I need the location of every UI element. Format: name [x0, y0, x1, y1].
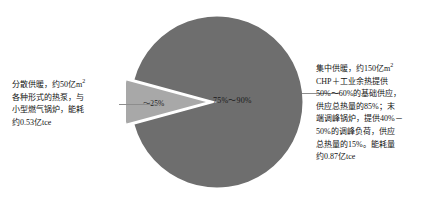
- annotation-right-line-6: 50%的调峰负荷，供应: [316, 126, 403, 139]
- annotation-right-line-4: 供应总热量的85%；末: [316, 101, 403, 114]
- annotation-right-line-5: 端调峰锅炉，提供40%－: [316, 113, 403, 126]
- annotation-left-line-1-superscript: 2: [82, 78, 85, 84]
- annotation-left-line-1-text: 分散供暖，约50亿m: [12, 80, 82, 89]
- leader-line-left: [119, 104, 159, 105]
- pie-chart-figure: 75%～90% ～25% 分散供暖，约50亿m2 各种形式的热泵，与 小型燃气锅…: [0, 0, 431, 198]
- slice-label-minor: ～25%: [143, 97, 165, 108]
- annotation-right-line-8: 约0.87亿tce: [316, 151, 403, 164]
- annotation-right-line-1-superscript: 2: [390, 62, 393, 68]
- annotation-right-line-1-text: 集中供暖，约150亿m: [316, 64, 390, 73]
- annotation-right-line-7: 总热量的15%。能耗量: [316, 139, 403, 152]
- annotation-right-line-1: 集中供暖，约150亿m2: [316, 63, 403, 76]
- slice-label-major: 75%～90%: [213, 94, 252, 105]
- annotation-left-line-4: 约0.53亿tce: [12, 117, 85, 130]
- annotation-right: 集中供暖，约150亿m2 CHP＋工业余热提供 50%～60%的基础供应， 供应…: [316, 63, 403, 164]
- annotation-right-line-2: CHP＋工业余热提供: [316, 76, 403, 89]
- annotation-right-line-3: 50%～60%的基础供应，: [316, 88, 403, 101]
- annotation-left: 分散供暖，约50亿m2 各种形式的热泵，与 小型燃气锅炉，能耗 约0.53亿tc…: [12, 79, 85, 129]
- annotation-left-line-1: 分散供暖，约50亿m2: [12, 79, 85, 92]
- annotation-left-line-2: 各种形式的热泵，与: [12, 92, 85, 105]
- annotation-left-line-3: 小型燃气锅炉，能耗: [12, 104, 85, 117]
